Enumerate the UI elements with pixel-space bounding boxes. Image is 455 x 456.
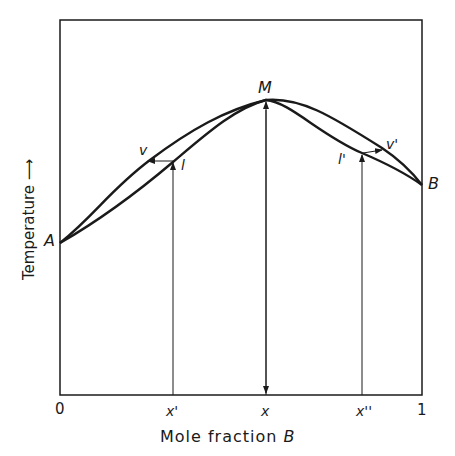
y-axis-label: Temperature ⟶: [22, 159, 37, 280]
x-axis-label-var: B: [284, 427, 296, 446]
x-tick-0: 0: [55, 402, 65, 417]
vapor-curve: [60, 100, 422, 243]
point-label-M: M: [258, 80, 272, 96]
x-axis-label-text: Mole fraction: [160, 427, 284, 446]
liquid-curve: [60, 100, 422, 243]
point-label-l-prime: l': [338, 152, 346, 166]
x-tick-x-double-prime: x'': [356, 404, 372, 418]
x-tick-1: 1: [417, 403, 427, 418]
point-label-l: l: [181, 158, 185, 172]
point-label-v-prime: v': [386, 137, 398, 151]
point-label-A: A: [44, 233, 55, 249]
point-label-v: v: [139, 143, 147, 157]
x-tick-x: x: [261, 404, 269, 418]
arrow-l-prime-to-v-prime: [363, 150, 382, 153]
point-label-B: B: [428, 176, 439, 192]
phase-diagram: [0, 0, 455, 456]
x-axis-label: Mole fraction B: [160, 429, 296, 445]
x-tick-x-prime: x': [166, 404, 178, 418]
